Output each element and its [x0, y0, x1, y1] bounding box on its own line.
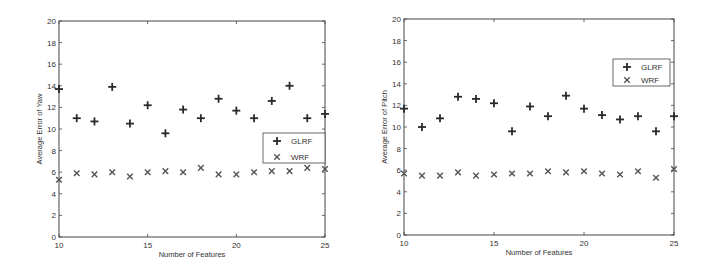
- plus-marker-icon: [161, 129, 169, 137]
- x-marker-icon: [437, 173, 443, 179]
- legend-label-wrf: WRF: [641, 76, 659, 85]
- x-tick-label: 15: [490, 239, 499, 248]
- y-tick-label: 12: [47, 103, 56, 112]
- x-marker-icon: [635, 168, 641, 174]
- plus-marker-icon: [144, 101, 152, 109]
- plus-marker-icon: [73, 114, 81, 122]
- x-marker-icon: [180, 169, 186, 175]
- x-marker-icon: [563, 170, 569, 176]
- plus-marker-icon: [616, 115, 624, 123]
- x-marker-icon: [473, 173, 479, 179]
- x-tick-label: 10: [55, 241, 64, 250]
- plus-marker-icon: [303, 114, 311, 122]
- plus-marker-icon: [179, 106, 187, 114]
- pitch-error-chart: 0246810121416182010152025Number of Featu…: [356, 0, 712, 271]
- plus-marker-icon: [652, 127, 660, 135]
- x-marker-icon: [545, 168, 551, 174]
- x-marker-icon: [251, 169, 257, 175]
- plot-area-frame: [59, 21, 325, 237]
- x-marker-icon: [419, 173, 425, 179]
- plus-marker-icon: [418, 123, 426, 131]
- yaw-chart-canvas: 0246810121416182010152025Number of Featu…: [0, 0, 356, 271]
- y-axis-label: Average Error of Yaw: [35, 93, 44, 164]
- plus-marker-icon: [55, 85, 63, 93]
- x-marker-icon: [509, 171, 515, 177]
- legend-label-glrf: GLRF: [641, 63, 662, 72]
- plus-marker-icon: [508, 127, 516, 135]
- y-tick-label: 6: [397, 166, 402, 175]
- x-marker-icon: [163, 168, 169, 174]
- plus-marker-icon: [472, 95, 480, 103]
- plus-marker-icon: [321, 110, 329, 118]
- y-tick-label: 8: [52, 147, 57, 156]
- y-tick-label: 4: [397, 188, 402, 197]
- y-tick-label: 18: [392, 37, 401, 46]
- yaw-error-chart: 0246810121416182010152025Number of Featu…: [0, 0, 356, 271]
- x-marker-icon: [145, 169, 151, 175]
- x-tick-label: 10: [400, 239, 409, 248]
- x-tick-label: 20: [232, 241, 241, 250]
- plus-marker-icon: [670, 112, 678, 120]
- plus-marker-icon: [544, 112, 552, 120]
- plus-marker-icon: [232, 107, 240, 115]
- x-marker-icon: [234, 172, 240, 178]
- y-tick-label: 20: [392, 15, 401, 24]
- plus-marker-icon: [90, 117, 98, 125]
- plus-marker-icon: [268, 97, 276, 105]
- series-wrf: [401, 166, 677, 180]
- y-tick-label: 2: [52, 211, 57, 220]
- x-marker-icon: [74, 170, 80, 176]
- legend-label-glrf: GLRF: [291, 137, 312, 146]
- plus-marker-icon: [108, 83, 116, 91]
- y-tick-label: 16: [392, 58, 401, 67]
- x-marker-icon: [599, 171, 605, 177]
- y-tick-label: 4: [52, 190, 57, 199]
- x-marker-icon: [617, 172, 623, 178]
- x-marker-icon: [127, 174, 133, 180]
- y-tick-label: 10: [392, 123, 401, 132]
- x-marker-icon: [198, 165, 204, 171]
- x-marker-icon: [269, 168, 275, 174]
- plus-marker-icon: [634, 112, 642, 120]
- plus-marker-icon: [598, 111, 606, 119]
- x-marker-icon: [304, 165, 310, 171]
- x-marker-icon: [109, 169, 115, 175]
- series-glrf: [55, 82, 329, 138]
- y-tick-label: 8: [397, 145, 402, 154]
- series-glrf: [400, 92, 678, 136]
- legend-label-wrf: WRF: [291, 153, 309, 162]
- plus-marker-icon: [197, 114, 205, 122]
- x-tick-label: 15: [143, 241, 152, 250]
- legend: GLRFWRF: [613, 59, 670, 86]
- plus-marker-icon: [215, 95, 223, 103]
- y-tick-label: 2: [397, 209, 402, 218]
- x-marker-icon: [491, 172, 497, 178]
- y-tick-label: 10: [47, 125, 56, 134]
- y-tick-label: 18: [47, 39, 56, 48]
- y-tick-label: 20: [47, 17, 56, 26]
- plus-marker-icon: [436, 114, 444, 122]
- plus-marker-icon: [126, 120, 134, 128]
- series-wrf: [56, 165, 328, 182]
- x-marker-icon: [581, 168, 587, 174]
- y-tick-label: 6: [52, 168, 57, 177]
- plus-marker-icon: [562, 92, 570, 100]
- x-axis-label: Number of Features: [506, 248, 573, 257]
- plus-marker-icon: [454, 93, 462, 101]
- y-tick-label: 14: [392, 80, 401, 89]
- x-tick-label: 25: [670, 239, 679, 248]
- x-tick-label: 20: [580, 239, 589, 248]
- plus-marker-icon: [250, 114, 258, 122]
- plot-area-frame: [404, 19, 674, 235]
- x-marker-icon: [216, 172, 222, 178]
- plus-marker-icon: [580, 105, 588, 113]
- y-tick-label: 16: [47, 60, 56, 69]
- x-axis-label: Number of Features: [159, 250, 226, 259]
- x-marker-icon: [455, 170, 461, 176]
- plus-marker-icon: [490, 99, 498, 107]
- plus-marker-icon: [526, 102, 534, 110]
- plus-marker-icon: [400, 105, 408, 113]
- pitch-chart-canvas: 0246810121416182010152025Number of Featu…: [356, 0, 712, 271]
- x-tick-label: 25: [321, 241, 330, 250]
- x-marker-icon: [92, 172, 98, 178]
